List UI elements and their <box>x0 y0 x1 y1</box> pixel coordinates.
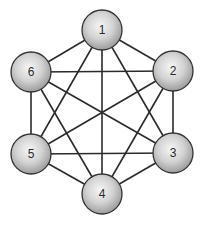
edge-4-6 <box>31 72 102 194</box>
graph-svg: 123456 <box>0 0 203 225</box>
node-6: 6 <box>11 52 51 92</box>
node-5: 5 <box>11 134 51 174</box>
graph-diagram: 123456 <box>0 0 203 225</box>
node-1: 1 <box>82 10 122 50</box>
edge-2-6 <box>31 71 173 72</box>
node-4: 4 <box>82 174 122 214</box>
node-label: 2 <box>170 64 177 78</box>
edge-group <box>31 30 173 194</box>
node-3: 3 <box>153 133 193 173</box>
node-label: 3 <box>170 146 177 160</box>
node-label: 5 <box>28 147 35 161</box>
node-label: 4 <box>99 187 106 201</box>
node-2: 2 <box>153 51 193 91</box>
node-label: 6 <box>28 65 35 79</box>
node-label: 1 <box>99 23 106 37</box>
edge-3-5 <box>31 153 173 154</box>
